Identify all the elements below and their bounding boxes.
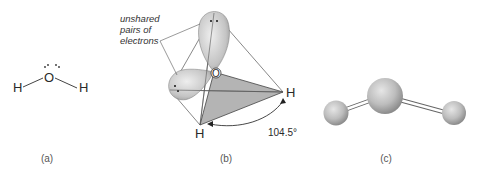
oxygen-sphere: [367, 78, 403, 114]
hydrogen-right-label: H: [79, 80, 88, 95]
annotation-line1: unshared: [120, 13, 160, 24]
hydrogen-sphere-left: [324, 101, 349, 126]
hydrogen-sphere-right: [442, 101, 466, 125]
hydrogen-left-label: H: [13, 80, 22, 95]
water-molecule-diagram: H O H (a): [0, 0, 479, 173]
hydrogen-right-label-b: H: [286, 85, 295, 100]
annotation-line2: pairs of: [119, 24, 153, 35]
bond-stick-right: [400, 100, 444, 112]
caption-b: (b): [220, 153, 232, 164]
annotation-line3: electrons: [120, 35, 159, 46]
annotation-leader-lines: [160, 24, 200, 75]
bond-stick-left: [344, 101, 369, 110]
lone-pair-dots: [44, 64, 60, 68]
caption-a: (a): [41, 153, 53, 164]
lone-pair-orbital-left: [169, 69, 214, 100]
bond-left: [23, 78, 43, 87]
caption-c: (c): [380, 153, 392, 164]
lone-pair-orbital-top: [199, 12, 230, 73]
molecular-plane: [200, 72, 283, 125]
panel-a-lewis-structure: H O H (a): [13, 64, 88, 164]
bond-angle-label: 104.5°: [268, 127, 297, 138]
bond-right: [55, 78, 77, 88]
hydrogen-bottom-label-b: H: [195, 126, 204, 141]
panel-b-orbital-model: O H H 104.5° unshared pairs of electrons…: [119, 12, 297, 165]
oxygen-label-b: O: [212, 68, 220, 79]
oxygen-label: O: [44, 70, 54, 85]
panel-c-ball-and-stick: (c): [324, 78, 467, 164]
